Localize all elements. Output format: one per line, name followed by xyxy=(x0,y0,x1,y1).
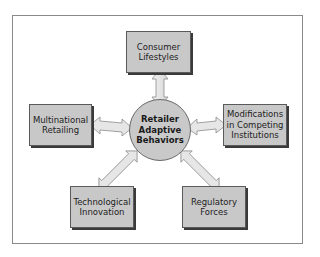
node-modifications-in-competing-institutions: Modifications in Competing Institutions xyxy=(223,104,287,146)
node-label: Multinational Retailing xyxy=(33,115,88,136)
center-node-retailer-adaptive-behaviors: Retailer Adaptive Behaviors xyxy=(129,99,191,161)
node-technological-innovation: Technological Innovation xyxy=(70,186,134,228)
node-consumer-lifestyles: Consumer Lifestyles xyxy=(126,31,191,73)
double-arrow-icon xyxy=(90,117,132,136)
center-node-label: Retailer Adaptive Behaviors xyxy=(136,114,184,146)
node-label: Modifications in Competing Institutions xyxy=(227,109,284,141)
node-label: Regulatory Forces xyxy=(191,197,237,218)
node-label: Technological Innovation xyxy=(73,197,130,218)
node-regulatory-forces: Regulatory Forces xyxy=(182,186,246,228)
node-label: Consumer Lifestyles xyxy=(137,42,180,63)
double-arrow-icon xyxy=(187,117,226,135)
node-multinational-retailing: Multinational Retailing xyxy=(29,104,92,146)
